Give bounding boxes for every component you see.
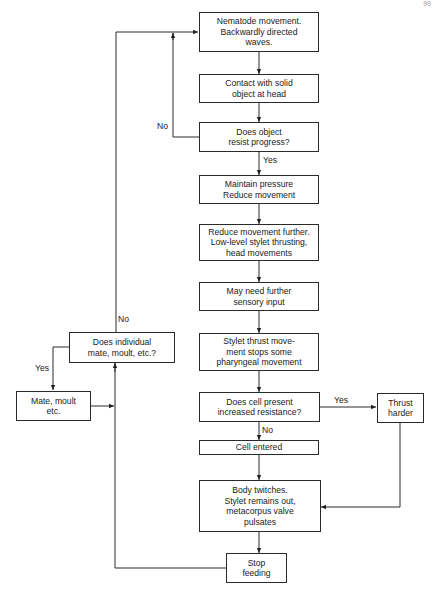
box-body-twitches: Body twitches. Stylet remains out, metac…: [199, 480, 321, 532]
arrow-thrust-to-body: [321, 422, 400, 507]
arrow-resist-no-loop: [173, 33, 199, 137]
box-reduce-movement-further: Reduce movement further. Low-level style…: [199, 224, 319, 261]
box-cell-entered: Cell entered: [199, 440, 319, 455]
arrow-individual-yes-to-mate: [53, 347, 69, 390]
label-no-cell: No: [262, 425, 273, 435]
box-nematode-movement: Nematode movement. Backwardly directed w…: [199, 12, 319, 52]
box-maintain-pressure: Maintain pressure Reduce movement: [199, 175, 319, 204]
box-stop-feeding: Stop feeding: [226, 553, 287, 583]
label-no-object: No: [157, 121, 168, 131]
box-does-object-resist: Does object resist progress?: [199, 122, 319, 152]
label-yes-object: Yes: [263, 155, 277, 165]
box-does-cell-resist: Does cell present increased resistance?: [199, 392, 320, 422]
box-thrust-harder: Thrust harder: [377, 393, 424, 423]
box-contact-solid-object: Contact with solid object at head: [199, 74, 319, 103]
arrow-outer-loop: [116, 32, 198, 332]
box-mate-moult: Mate, moult etc.: [16, 391, 91, 421]
box-stylet-thrust: Stylet thrust move- ment stops some phar…: [199, 333, 319, 371]
label-yes-cell: Yes: [334, 395, 348, 405]
box-sensory-input: May need further sensory input: [199, 282, 319, 311]
label-no-individual: No: [118, 314, 129, 324]
box-does-individual-mate: Does individual mate, moult, etc.?: [69, 332, 175, 363]
label-yes-individual: Yes: [35, 363, 49, 373]
